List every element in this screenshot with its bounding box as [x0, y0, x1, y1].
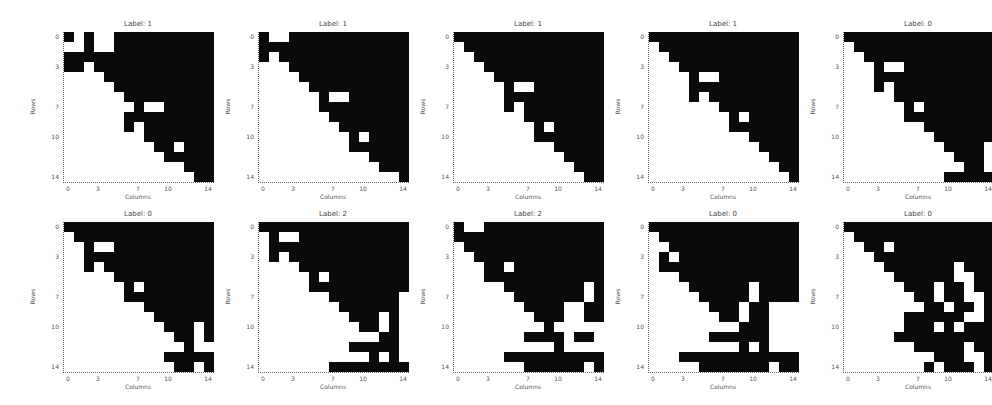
- heatmap-cell: [154, 352, 164, 362]
- heatmap-cell: [944, 42, 954, 52]
- heatmap-cell: [269, 152, 279, 162]
- heatmap-cell: [454, 312, 464, 322]
- heatmap-cell: [84, 72, 94, 82]
- heatmap-cell: [144, 222, 154, 232]
- heatmap-cell: [659, 252, 669, 262]
- heatmap-cell: [504, 42, 514, 52]
- heatmap-cell: [894, 122, 904, 132]
- heatmap-cell: [504, 322, 514, 332]
- y-tick-label: 7: [630, 293, 644, 300]
- heatmap-cell: [894, 82, 904, 92]
- heatmap-cell: [779, 92, 789, 102]
- heatmap-cell: [339, 292, 349, 302]
- heatmap-cell: [279, 142, 289, 152]
- heatmap-cell: [104, 172, 114, 182]
- heatmap-cell: [309, 62, 319, 72]
- heatmap-cell: [739, 42, 749, 52]
- heatmap-cell: [554, 132, 564, 142]
- heatmap-cell: [944, 272, 954, 282]
- heatmap-cell: [749, 282, 759, 292]
- heatmap-cell: [574, 162, 584, 172]
- heatmap-cell: [64, 342, 74, 352]
- heatmap-cell: [934, 102, 944, 112]
- heatmap-cell: [174, 292, 184, 302]
- heatmap-cell: [94, 52, 104, 62]
- heatmap-cell: [669, 222, 679, 232]
- heatmap-cell: [134, 52, 144, 62]
- heatmap-cell: [884, 72, 894, 82]
- heatmap-cell: [454, 32, 464, 42]
- heatmap-cell: [194, 102, 204, 112]
- heatmap-cell: [544, 222, 554, 232]
- heatmap-cell: [534, 322, 544, 332]
- heatmap-cell: [64, 152, 74, 162]
- heatmap-cell: [874, 252, 884, 262]
- heatmap-cell: [144, 232, 154, 242]
- heatmap-cell: [134, 362, 144, 372]
- heatmap-cell: [289, 152, 299, 162]
- heatmap-cell: [659, 322, 669, 332]
- heatmap-cell: [269, 72, 279, 82]
- heatmap-cell: [934, 292, 944, 302]
- heatmap-cell: [544, 42, 554, 52]
- heatmap-cell: [484, 52, 494, 62]
- heatmap-cell: [484, 282, 494, 292]
- heatmap-cell: [564, 312, 574, 322]
- heatmap-cell: [954, 352, 964, 362]
- heatmap-cell: [454, 72, 464, 82]
- heatmap-cell: [749, 32, 759, 42]
- heatmap-cell: [749, 72, 759, 82]
- heatmap-cell: [944, 132, 954, 142]
- heatmap-cell: [464, 42, 474, 52]
- y-axis-label: Rows: [224, 99, 231, 115]
- heatmap-cell: [474, 342, 484, 352]
- heatmap-cell: [194, 322, 204, 332]
- heatmap-cell: [464, 312, 474, 322]
- heatmap-cell: [854, 62, 864, 72]
- heatmap-cell: [144, 132, 154, 142]
- heatmap-cell: [174, 282, 184, 292]
- heatmap-cell: [524, 162, 534, 172]
- heatmap-cell: [914, 92, 924, 102]
- heatmap-cell: [204, 342, 214, 352]
- heatmap-cell: [844, 262, 854, 272]
- heatmap-cell: [64, 142, 74, 152]
- heatmap-cell: [844, 302, 854, 312]
- heatmap-cell: [564, 302, 574, 312]
- y-tick-label: 14: [630, 173, 644, 180]
- heatmap-cell: [649, 52, 659, 62]
- heatmap-cell: [474, 132, 484, 142]
- heatmap-cell: [319, 92, 329, 102]
- heatmap-cell: [144, 122, 154, 132]
- heatmap-cell: [584, 162, 594, 172]
- heatmap-cell: [984, 62, 992, 72]
- heatmap-cell: [494, 112, 504, 122]
- heatmap-cell: [659, 72, 669, 82]
- x-tick-label: 10: [356, 185, 370, 192]
- heatmap-cell: [874, 342, 884, 352]
- heatmap-cell: [329, 272, 339, 282]
- heatmap-cell: [399, 272, 409, 282]
- heatmap-cell: [494, 92, 504, 102]
- heatmap-cell: [514, 272, 524, 282]
- heatmap-cell: [484, 222, 494, 232]
- heatmap-cell: [514, 252, 524, 262]
- heatmap-cell: [164, 272, 174, 282]
- heatmap-cell: [299, 152, 309, 162]
- heatmap-cell: [584, 292, 594, 302]
- heatmap-cell: [894, 342, 904, 352]
- heatmap-cell: [924, 242, 934, 252]
- x-tick-label: 10: [746, 375, 760, 382]
- heatmap-cell: [884, 312, 894, 322]
- heatmap-cell: [594, 222, 604, 232]
- heatmap-cell: [309, 172, 319, 182]
- heatmap-cell: [484, 162, 494, 172]
- heatmap-cell: [789, 272, 799, 282]
- heatmap-cell: [574, 172, 584, 182]
- heatmap-cell: [719, 302, 729, 312]
- heatmap-cell: [984, 332, 992, 342]
- heatmap-cell: [289, 272, 299, 282]
- heatmap-cell: [399, 362, 409, 372]
- heatmap-cell: [484, 102, 494, 112]
- heatmap-cell: [329, 32, 339, 42]
